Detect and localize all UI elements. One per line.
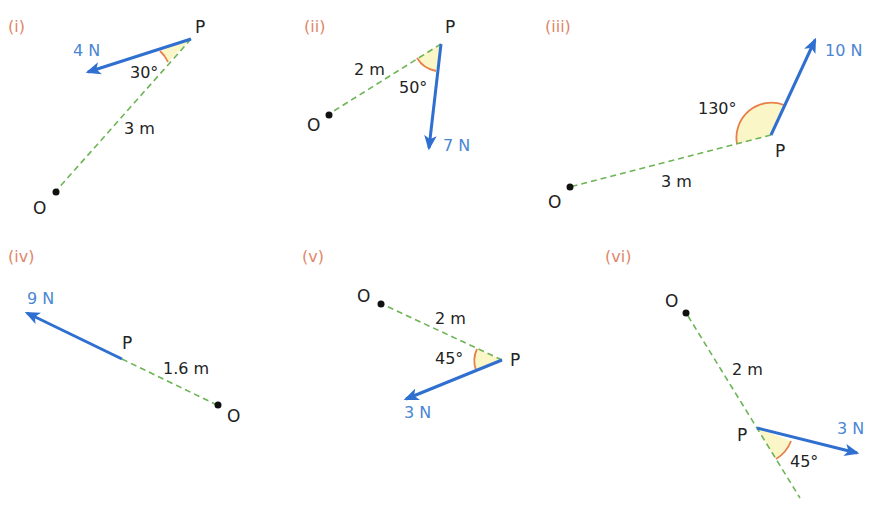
point-o-label: O [357,286,370,306]
part-label: (i) [8,17,25,36]
distance-label: 2 m [732,360,763,379]
point-o-label: O [665,291,678,311]
part-label: (iii) [545,17,571,36]
angle-label: 45° [790,452,818,471]
part-label: (v) [302,247,324,266]
force-label: 7 N [443,136,470,155]
force-arrow [771,40,815,135]
diagram-v: (v) P O 2 m 45° 3 N [302,247,520,422]
part-label: (iv) [8,247,34,266]
point-p-label: P [775,141,785,161]
angle-label: 30° [130,63,158,82]
pivot-point [326,112,333,119]
pivot-point [567,184,574,191]
part-label: (vi) [605,247,631,266]
pivot-point [683,310,690,317]
point-o-label: O [227,406,240,426]
distance-label: 3 m [661,172,692,191]
position-line [688,316,800,498]
distance-label: 3 m [124,119,155,138]
diagram-i: (i) P O 3 m 30° 4 N [8,17,205,218]
angle-label: 50° [399,78,427,97]
point-p-label: P [445,17,455,37]
diagram-iii: (iii) P O 3 m 130° 10 N [545,17,862,212]
point-o-label: O [33,198,46,218]
pivot-point [215,402,222,409]
point-o-label: O [548,192,561,212]
force-label: 3 N [837,419,864,438]
diagram-ii: (ii) P O 2 m 50° 7 N [304,17,470,155]
part-label: (ii) [304,17,325,36]
pivot-point [53,189,60,196]
point-p-label: P [510,350,520,370]
force-label: 10 N [825,41,862,60]
point-p-label: P [737,425,747,445]
force-diagrams-figure: (i) P O 3 m 30° 4 N (ii) P O 2 m 50° 7 N… [0,0,877,511]
distance-label: 2 m [435,309,466,328]
point-p-label: P [122,333,132,353]
force-label: 3 N [404,403,431,422]
force-label: 9 N [27,289,54,308]
diagram-iv: (iv) P O 1.6 m 9 N [8,247,240,426]
point-o-label: O [307,115,320,135]
angle-label: 130° [698,99,737,118]
distance-label: 2 m [354,60,385,79]
distance-label: 1.6 m [163,359,209,378]
force-arrow [27,313,122,359]
force-label: 4 N [73,41,100,60]
pivot-point [378,301,385,308]
point-p-label: P [195,17,205,37]
angle-label: 45° [435,349,463,368]
diagram-vi: (vi) P O 2 m 45° 3 N [605,247,864,498]
